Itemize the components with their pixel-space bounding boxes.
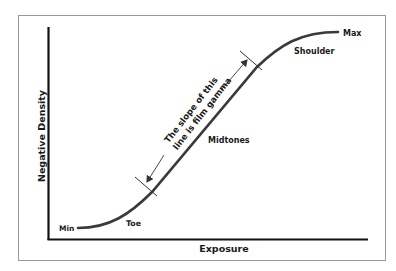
x-axis-label: Exposure	[199, 243, 249, 254]
upper-slope-tick	[240, 51, 262, 70]
label-shoulder: Shoulder	[294, 47, 335, 56]
y-axis-label: Negative Density	[36, 89, 47, 182]
label-min: Min	[59, 224, 74, 233]
lower-slope-tick	[135, 177, 157, 196]
label-midtones: Midtones	[208, 136, 250, 145]
label-max: Max	[343, 29, 362, 38]
characteristic-curve-diagram: The slope of this line is film gamma Min…	[0, 0, 396, 271]
characteristic-curve	[78, 32, 338, 228]
label-toe: Toe	[126, 219, 141, 228]
arrow-down-left	[147, 155, 164, 182]
